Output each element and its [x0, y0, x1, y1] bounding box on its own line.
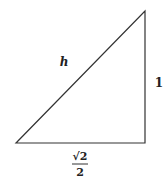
- vertical-leg-label: 1: [155, 76, 163, 90]
- right-triangle: [16, 11, 145, 143]
- hypotenuse-label: h: [60, 55, 69, 69]
- horizontal-leg-numerator: √2: [73, 150, 88, 163]
- triangle-diagram: h 1 √2 2: [0, 0, 166, 188]
- horizontal-leg-denominator: 2: [76, 166, 84, 179]
